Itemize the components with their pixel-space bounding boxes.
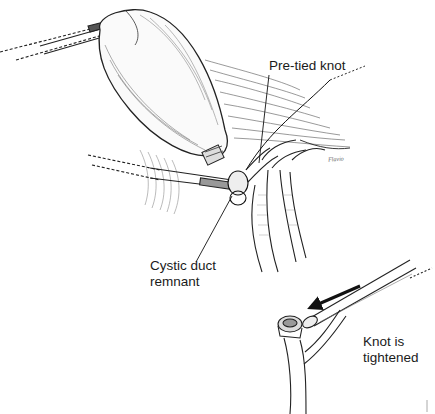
cystic-duct-remnant-label: Cystic duct remnant: [150, 258, 216, 290]
direction-arrow: [314, 286, 360, 306]
pre-tied-knot-label: Pre-tied knot: [269, 58, 346, 74]
peritoneal-hatching: [140, 150, 179, 214]
biliary-ducts: [246, 140, 325, 272]
knot-is-tightened-label: Knot is tightened: [363, 334, 419, 366]
gallbladder: [99, 10, 227, 156]
inset-knot-pusher: [301, 260, 432, 330]
duct-shading: [257, 195, 297, 235]
artist-signature: Flavio: [328, 155, 344, 162]
